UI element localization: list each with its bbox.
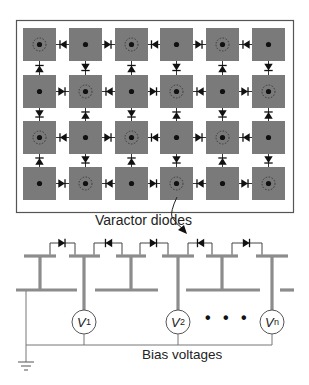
source-subscript: 2 (180, 317, 185, 327)
patch-cell (160, 121, 193, 154)
bias-voltages-label: Bias voltages (142, 347, 222, 362)
circuit-varactor-diode (94, 239, 122, 255)
patch-cell (206, 28, 239, 61)
diode-lead (94, 243, 122, 255)
voltage-source-vn: Vn (260, 310, 284, 334)
patch-cell (252, 121, 285, 154)
patch-cell (23, 167, 56, 200)
patch-cell (160, 28, 193, 61)
via-dot-icon (37, 181, 42, 186)
via-dot-icon (129, 42, 134, 47)
patch-cell (252, 28, 285, 61)
via-dot-icon (129, 135, 134, 140)
diode-lead (140, 243, 168, 255)
via-dot-icon (220, 135, 225, 140)
via-dot-icon (174, 42, 179, 47)
patch-cell (23, 75, 56, 108)
via-dot-icon (37, 89, 42, 94)
patch-cell (206, 167, 239, 200)
patch-cell (115, 75, 148, 108)
source-subscript: n (274, 317, 279, 327)
via-dot-icon (220, 181, 225, 186)
patch-cell (252, 167, 285, 200)
via-dot-icon (174, 135, 179, 140)
ellipsis: • • • (205, 309, 251, 327)
voltage-source-v2: V2 (166, 310, 190, 334)
source-subscript: 1 (86, 317, 91, 327)
via-dot-icon (83, 89, 88, 94)
circuit-varactor-diode (50, 239, 75, 255)
via-dot-icon (174, 181, 179, 186)
patch-cell (23, 28, 56, 61)
circuit-varactor-diode (232, 239, 262, 255)
patch-cell (252, 75, 285, 108)
via-dot-icon (220, 42, 225, 47)
diode-lead (188, 243, 212, 255)
via-dot-icon (129, 181, 134, 186)
via-dot-icon (37, 42, 42, 47)
circuit-varactor-diode (188, 239, 212, 255)
via-dot-icon (266, 42, 271, 47)
voltage-source-v1: V1 (72, 310, 96, 334)
via-dot-icon (174, 89, 179, 94)
diode-lead (50, 243, 75, 255)
via-dot-icon (266, 181, 271, 186)
diode-triangle-icon (150, 239, 157, 247)
patch-cell (23, 121, 56, 154)
diode-triangle-icon (197, 239, 204, 247)
via-dot-icon (83, 181, 88, 186)
source-symbol: V (77, 315, 86, 330)
diode-triangle-icon (58, 239, 65, 247)
via-dot-icon (83, 135, 88, 140)
patch-cell (160, 75, 193, 108)
patch-cell (69, 28, 102, 61)
via-dot-icon (37, 135, 42, 140)
source-symbol: V (265, 315, 274, 330)
via-dot-icon (129, 89, 134, 94)
patch-cell (69, 121, 102, 154)
patch-cell (115, 121, 148, 154)
patch-cell (115, 28, 148, 61)
patch-cell (206, 121, 239, 154)
via-dot-icon (220, 89, 225, 94)
diode-triangle-icon (105, 239, 112, 247)
patch-cell (115, 167, 148, 200)
diode-lead (232, 243, 262, 255)
patch-cell (160, 167, 193, 200)
metasurface-diagram: Varactor diodes V1 V2 Vn • • • Bias volt… (0, 0, 309, 385)
circuit-varactor-diode (140, 239, 168, 255)
diode-triangle-icon (243, 239, 250, 247)
source-symbol: V (171, 315, 180, 330)
via-dot-icon (83, 42, 88, 47)
varactor-diodes-label: Varactor diodes (95, 212, 192, 228)
patch-cell (206, 75, 239, 108)
patch-cell (69, 167, 102, 200)
via-dot-icon (266, 135, 271, 140)
patch-cell (69, 75, 102, 108)
via-dot-icon (266, 89, 271, 94)
